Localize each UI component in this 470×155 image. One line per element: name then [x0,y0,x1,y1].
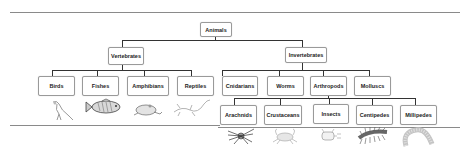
node-millipedes: Millipedes [400,105,437,125]
connector [415,98,416,105]
node-birds: Birds [38,76,75,96]
node-insects: Insects [313,104,349,124]
crab-icon [270,127,300,145]
connector [122,40,123,47]
frog-icon [132,101,164,117]
connector [222,70,370,71]
connector [372,98,373,105]
connector [234,98,416,99]
node-vertebrates: Vertebrates [108,47,144,65]
node-reptiles: Reptiles [177,76,214,96]
node-invertebrates: Invertebrates [285,47,327,63]
node-centipedes: Centipedes [356,105,393,125]
top-rule [10,12,460,13]
connector [280,98,281,105]
node-worms: Worms [267,76,304,96]
connector [302,63,303,70]
node-fishes: Fishes [82,76,119,96]
node-arthropods: Arthropods [310,76,347,96]
animal-classification-diagram: Animals Vertebrates Invertebrates Birds … [0,0,470,155]
node-molluscs: Molluscs [354,76,391,96]
node-amphibians: Amphibians [127,76,169,96]
centipede-icon [356,126,392,146]
node-cnidarians: Cnidarians [222,76,258,96]
bottom-rule-left [10,125,220,126]
connector [122,40,303,41]
connector [52,70,192,71]
connector [302,40,303,47]
connector [234,98,235,105]
millipede-icon [400,126,436,148]
fish-icon [84,98,124,116]
insect-icon [318,128,346,144]
bird-icon [45,98,77,122]
node-arachnids: Arachnids [220,105,257,125]
node-animals: Animals [200,22,232,37]
spider-icon [226,127,256,145]
lizard-icon [172,98,212,118]
node-crustaceans: Crustaceans [264,105,302,125]
